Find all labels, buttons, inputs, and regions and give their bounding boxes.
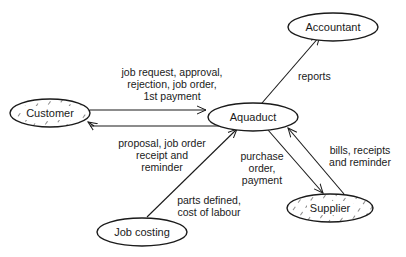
node-label: Aquaduct [230, 111, 276, 123]
label-aquaduct-to-supplier: purchase order, payment [240, 150, 283, 186]
edge-aquaduct-to-customer [88, 122, 228, 126]
node-label: Job costing [114, 226, 170, 238]
svg-text:parts defined,: parts defined, [177, 194, 241, 206]
svg-text:cost of labour: cost of labour [177, 206, 241, 218]
svg-text:order,: order, [249, 162, 276, 174]
svg-text:reports: reports [298, 70, 331, 82]
node-label: Accountant [305, 21, 360, 33]
svg-text:and reminder: and reminder [329, 156, 391, 168]
node-label: Customer [26, 107, 74, 119]
svg-text:bills, receipts: bills, receipts [330, 144, 391, 156]
node-customer: Customer [10, 99, 90, 127]
svg-text:reminder: reminder [141, 161, 183, 173]
label-aquaduct-to-accountant: reports [298, 70, 331, 82]
node-accountant: Accountant [288, 13, 378, 41]
context-diagram: Accountant Customer Aquaduct Supplier Jo… [0, 0, 406, 257]
svg-text:1st payment: 1st payment [143, 90, 200, 102]
svg-text:purchase: purchase [240, 150, 283, 162]
svg-text:rejection, job order,: rejection, job order, [127, 78, 216, 90]
label-job-costing-to-aquaduct: parts defined, cost of labour [177, 194, 241, 218]
svg-text:receipt and: receipt and [136, 149, 188, 161]
label-supplier-to-aquaduct: bills, receipts and reminder [329, 144, 391, 168]
svg-text:job request, approval,: job request, approval, [121, 66, 223, 78]
node-label: Supplier [310, 202, 351, 214]
label-customer-to-aquaduct: job request, approval, rejection, job or… [121, 66, 223, 102]
node-aquaduct: Aquaduct [208, 103, 298, 131]
node-job-costing: Job costing [97, 218, 187, 246]
svg-text:payment: payment [242, 174, 282, 186]
node-supplier: Supplier [287, 194, 373, 222]
svg-text:proposal, job order: proposal, job order [118, 137, 206, 149]
label-aquaduct-to-customer: proposal, job order receipt and reminder [118, 137, 206, 173]
